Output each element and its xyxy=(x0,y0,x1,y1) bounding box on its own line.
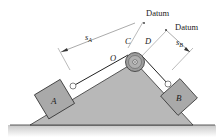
datum-label-right: Datum xyxy=(175,22,199,32)
arrowhead-s-a xyxy=(61,48,68,52)
s-a-label: sA xyxy=(85,32,92,43)
s-a-sub: A xyxy=(87,37,92,43)
ground-shadow xyxy=(8,125,216,137)
datum-point-top xyxy=(143,22,145,24)
point-d-label: D xyxy=(144,36,152,46)
extension-line-b xyxy=(172,48,193,70)
main-pulley-hub xyxy=(134,61,136,63)
pulley-wedge-diagram: A B Datum Datum sA sB C D O xyxy=(0,0,222,140)
block-b-label: B xyxy=(176,93,182,103)
point-o-label: O xyxy=(110,53,116,63)
s-b-sub: B xyxy=(179,42,183,48)
datum-point-right xyxy=(165,29,167,31)
datum-label-top: Datum xyxy=(146,8,170,18)
block-b-pulley-icon xyxy=(165,81,171,87)
block-a-label: A xyxy=(50,96,57,106)
dimension-line-s-a xyxy=(61,23,135,52)
s-b-label: sB xyxy=(176,37,183,48)
point-c-label: C xyxy=(125,36,131,46)
arrowhead-s-b xyxy=(184,47,190,52)
block-a-pulley-icon xyxy=(70,83,76,89)
